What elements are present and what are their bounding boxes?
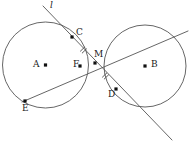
label-point-e: E [22,104,29,113]
label-point-a: A [33,60,40,69]
label-point-d: D [108,90,115,99]
label-point-c: C [76,28,83,37]
point-dot-m [93,61,96,64]
point-dot-b [143,64,146,67]
label-point-b: B [151,60,158,69]
label-point-f: F [73,60,79,69]
label-point-m: M [94,50,103,59]
point-dots [23,35,146,102]
tick-cm [80,47,86,53]
point-dot-c [70,35,73,38]
figure-canvas [0,0,189,144]
label-l: l [50,1,53,10]
geometry-figure: l A B C M F D E [0,0,189,144]
point-dot-a [44,63,47,66]
